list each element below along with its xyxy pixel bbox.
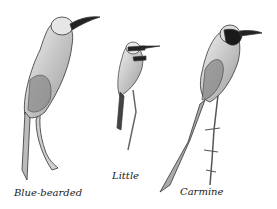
blue-bearded-bird [22, 17, 100, 180]
label-blue-bearded: Blue-bearded [14, 187, 82, 198]
label-little: Little [112, 170, 139, 181]
little-bird [117, 42, 160, 150]
bird-illustration: Blue-bearded Little Carmine [0, 0, 277, 209]
label-carmine: Carmine [180, 186, 223, 197]
carmine-bird [160, 25, 262, 192]
